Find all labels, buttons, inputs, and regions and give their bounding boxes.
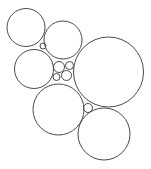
circle-small-cluster-c (53, 74, 60, 81)
circle-small-gap-bottom (84, 104, 93, 113)
circle-large-right (74, 37, 144, 107)
circle-bottom-right (78, 108, 130, 160)
circle-middle-left (15, 50, 54, 89)
circles-group (7, 9, 144, 161)
circle-top-left (7, 9, 45, 47)
circle-small-cluster-d (62, 71, 72, 81)
circle-small-cluster-a (54, 62, 65, 73)
circle-lower-middle (33, 84, 84, 135)
circle-small-cluster-b (66, 62, 74, 70)
circle-packing-diagram (0, 0, 151, 169)
circle-top-middle (44, 21, 82, 59)
